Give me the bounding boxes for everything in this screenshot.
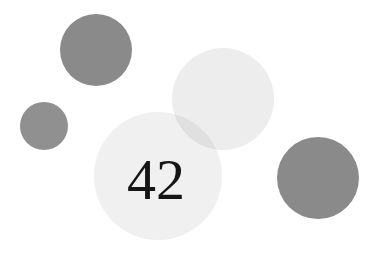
illustration-canvas: 42 [0, 0, 381, 260]
circle-dark-small-left [20, 102, 68, 150]
circles-illustration: 42 [0, 0, 381, 260]
big-number-42: 42 [127, 147, 185, 212]
circle-dark-top-left [60, 14, 132, 86]
circle-dark-bottom-right [277, 137, 359, 219]
